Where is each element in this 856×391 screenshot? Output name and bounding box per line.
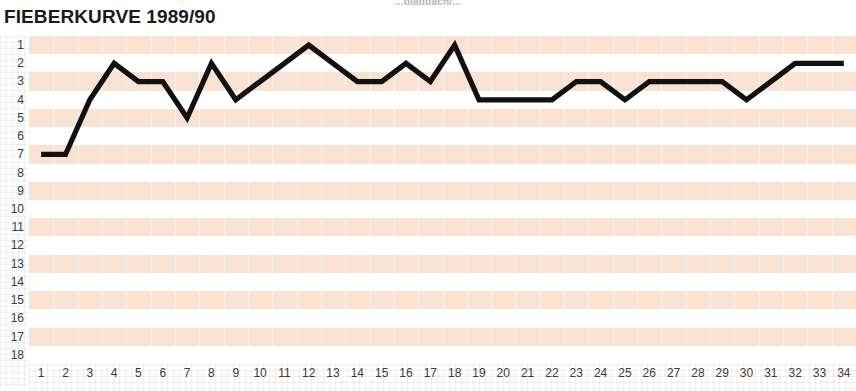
x-tick-12: 12 [297,366,321,380]
x-tick-10: 10 [248,366,272,380]
y-tick-2: 2 [0,54,24,72]
page-title: FIEBERKURVE 1989/90 [4,6,216,28]
y-tick-13: 13 [0,255,24,273]
chart-page: ...gladbach/... FIEBERKURVE 1989/90 1234… [0,0,856,391]
x-tick-16: 16 [394,366,418,380]
y-tick-11: 11 [0,218,24,236]
y-tick-3: 3 [0,72,24,90]
x-tick-24: 24 [589,366,613,380]
x-tick-7: 7 [175,366,199,380]
y-tick-9: 9 [0,182,24,200]
y-tick-18: 18 [0,346,24,364]
y-tick-5: 5 [0,109,24,127]
x-tick-5: 5 [126,366,150,380]
x-tick-8: 8 [199,366,223,380]
x-tick-28: 28 [686,366,710,380]
x-axis: 1234567891011121314151617181920212223242… [29,366,856,388]
x-tick-22: 22 [540,366,564,380]
y-tick-12: 12 [0,236,24,254]
x-tick-13: 13 [321,366,345,380]
x-tick-2: 2 [53,366,77,380]
y-axis: 123456789101112131415161718 [29,36,856,364]
y-tick-15: 15 [0,291,24,309]
x-tick-15: 15 [370,366,394,380]
y-tick-16: 16 [0,309,24,327]
x-tick-6: 6 [151,366,175,380]
x-tick-33: 33 [808,366,832,380]
y-tick-6: 6 [0,127,24,145]
y-tick-14: 14 [0,273,24,291]
y-tick-17: 17 [0,328,24,346]
x-tick-19: 19 [467,366,491,380]
top-caption: ...gladbach/... [0,0,856,5]
x-tick-9: 9 [224,366,248,380]
x-tick-1: 1 [29,366,53,380]
x-tick-17: 17 [418,366,442,380]
x-tick-23: 23 [564,366,588,380]
y-tick-10: 10 [0,200,24,218]
x-tick-26: 26 [637,366,661,380]
x-tick-4: 4 [102,366,126,380]
x-tick-20: 20 [491,366,515,380]
x-tick-14: 14 [345,366,369,380]
x-tick-30: 30 [735,366,759,380]
x-tick-3: 3 [78,366,102,380]
y-tick-8: 8 [0,164,24,182]
y-tick-1: 1 [0,36,24,54]
x-tick-34: 34 [832,366,856,380]
x-tick-11: 11 [272,366,296,380]
x-tick-31: 31 [759,366,783,380]
x-tick-18: 18 [443,366,467,380]
x-tick-32: 32 [783,366,807,380]
y-tick-7: 7 [0,145,24,163]
x-tick-27: 27 [662,366,686,380]
y-tick-4: 4 [0,91,24,109]
x-tick-21: 21 [516,366,540,380]
x-tick-29: 29 [710,366,734,380]
x-tick-25: 25 [613,366,637,380]
